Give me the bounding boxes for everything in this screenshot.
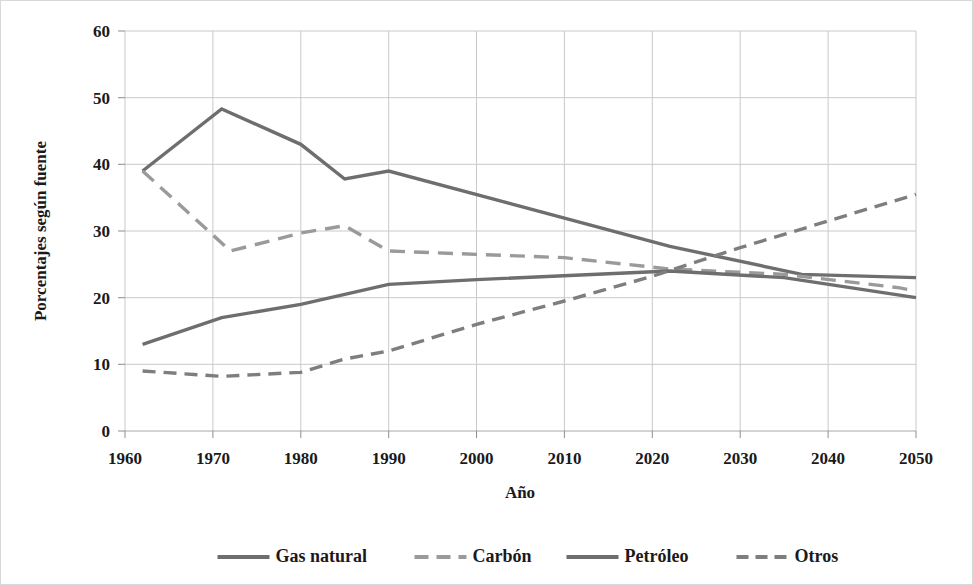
x-tick-label-1980: 1980 xyxy=(284,449,318,468)
series-layer xyxy=(143,109,916,376)
x-tick-label-2040: 2040 xyxy=(811,449,845,468)
chart-legend: Gas naturalCarbónPetróleoOtros xyxy=(218,546,839,566)
y-tick-label-50: 50 xyxy=(93,89,110,108)
series-line-petróleo xyxy=(143,271,916,344)
y-axis-tick-labels: 60 50 40 30 20 10 0 xyxy=(93,22,110,441)
y-axis-title: Porcentajes según fuente xyxy=(31,141,50,321)
x-tick-label-2030: 2030 xyxy=(723,449,757,468)
line-chart: 60 50 40 30 20 10 0 1960 1970 1980 1990 … xyxy=(1,1,973,585)
x-tick-label-2020: 2020 xyxy=(635,449,669,468)
chart-figure: 60 50 40 30 20 10 0 1960 1970 1980 1990 … xyxy=(0,0,973,585)
y-tick-label-60: 60 xyxy=(93,22,110,41)
y-tick-label-10: 10 xyxy=(93,355,110,374)
y-axis-tickmarks xyxy=(118,31,125,431)
y-tick-label-0: 0 xyxy=(102,422,111,441)
x-tick-label-2010: 2010 xyxy=(547,449,581,468)
y-tick-label-20: 20 xyxy=(93,289,110,308)
x-axis-title: Año xyxy=(505,483,535,502)
legend-item-carbón[interactable]: Carbón xyxy=(415,546,532,566)
legend-item-petróleo[interactable]: Petróleo xyxy=(567,546,689,566)
x-tick-label-1960: 1960 xyxy=(108,449,142,468)
x-tick-label-2000: 2000 xyxy=(460,449,494,468)
legend-label-petróleo: Petróleo xyxy=(625,546,689,566)
series-line-otros xyxy=(143,194,916,376)
x-tick-label-1970: 1970 xyxy=(196,449,230,468)
legend-label-otros: Otros xyxy=(795,546,839,566)
y-tick-label-40: 40 xyxy=(93,155,110,174)
y-tick-label-30: 30 xyxy=(93,222,110,241)
x-tick-label-1990: 1990 xyxy=(372,449,406,468)
legend-item-gas-natural[interactable]: Gas natural xyxy=(218,546,368,566)
legend-label-carbón: Carbón xyxy=(473,546,532,566)
x-tick-label-2050: 2050 xyxy=(899,449,933,468)
x-axis-tickmarks xyxy=(125,431,916,438)
legend-label-gas-natural: Gas natural xyxy=(276,546,368,566)
legend-item-otros[interactable]: Otros xyxy=(737,546,839,566)
x-axis-tick-labels: 1960 1970 1980 1990 2000 2010 2020 2030 … xyxy=(108,449,933,468)
series-line-gas-natural xyxy=(143,109,916,278)
